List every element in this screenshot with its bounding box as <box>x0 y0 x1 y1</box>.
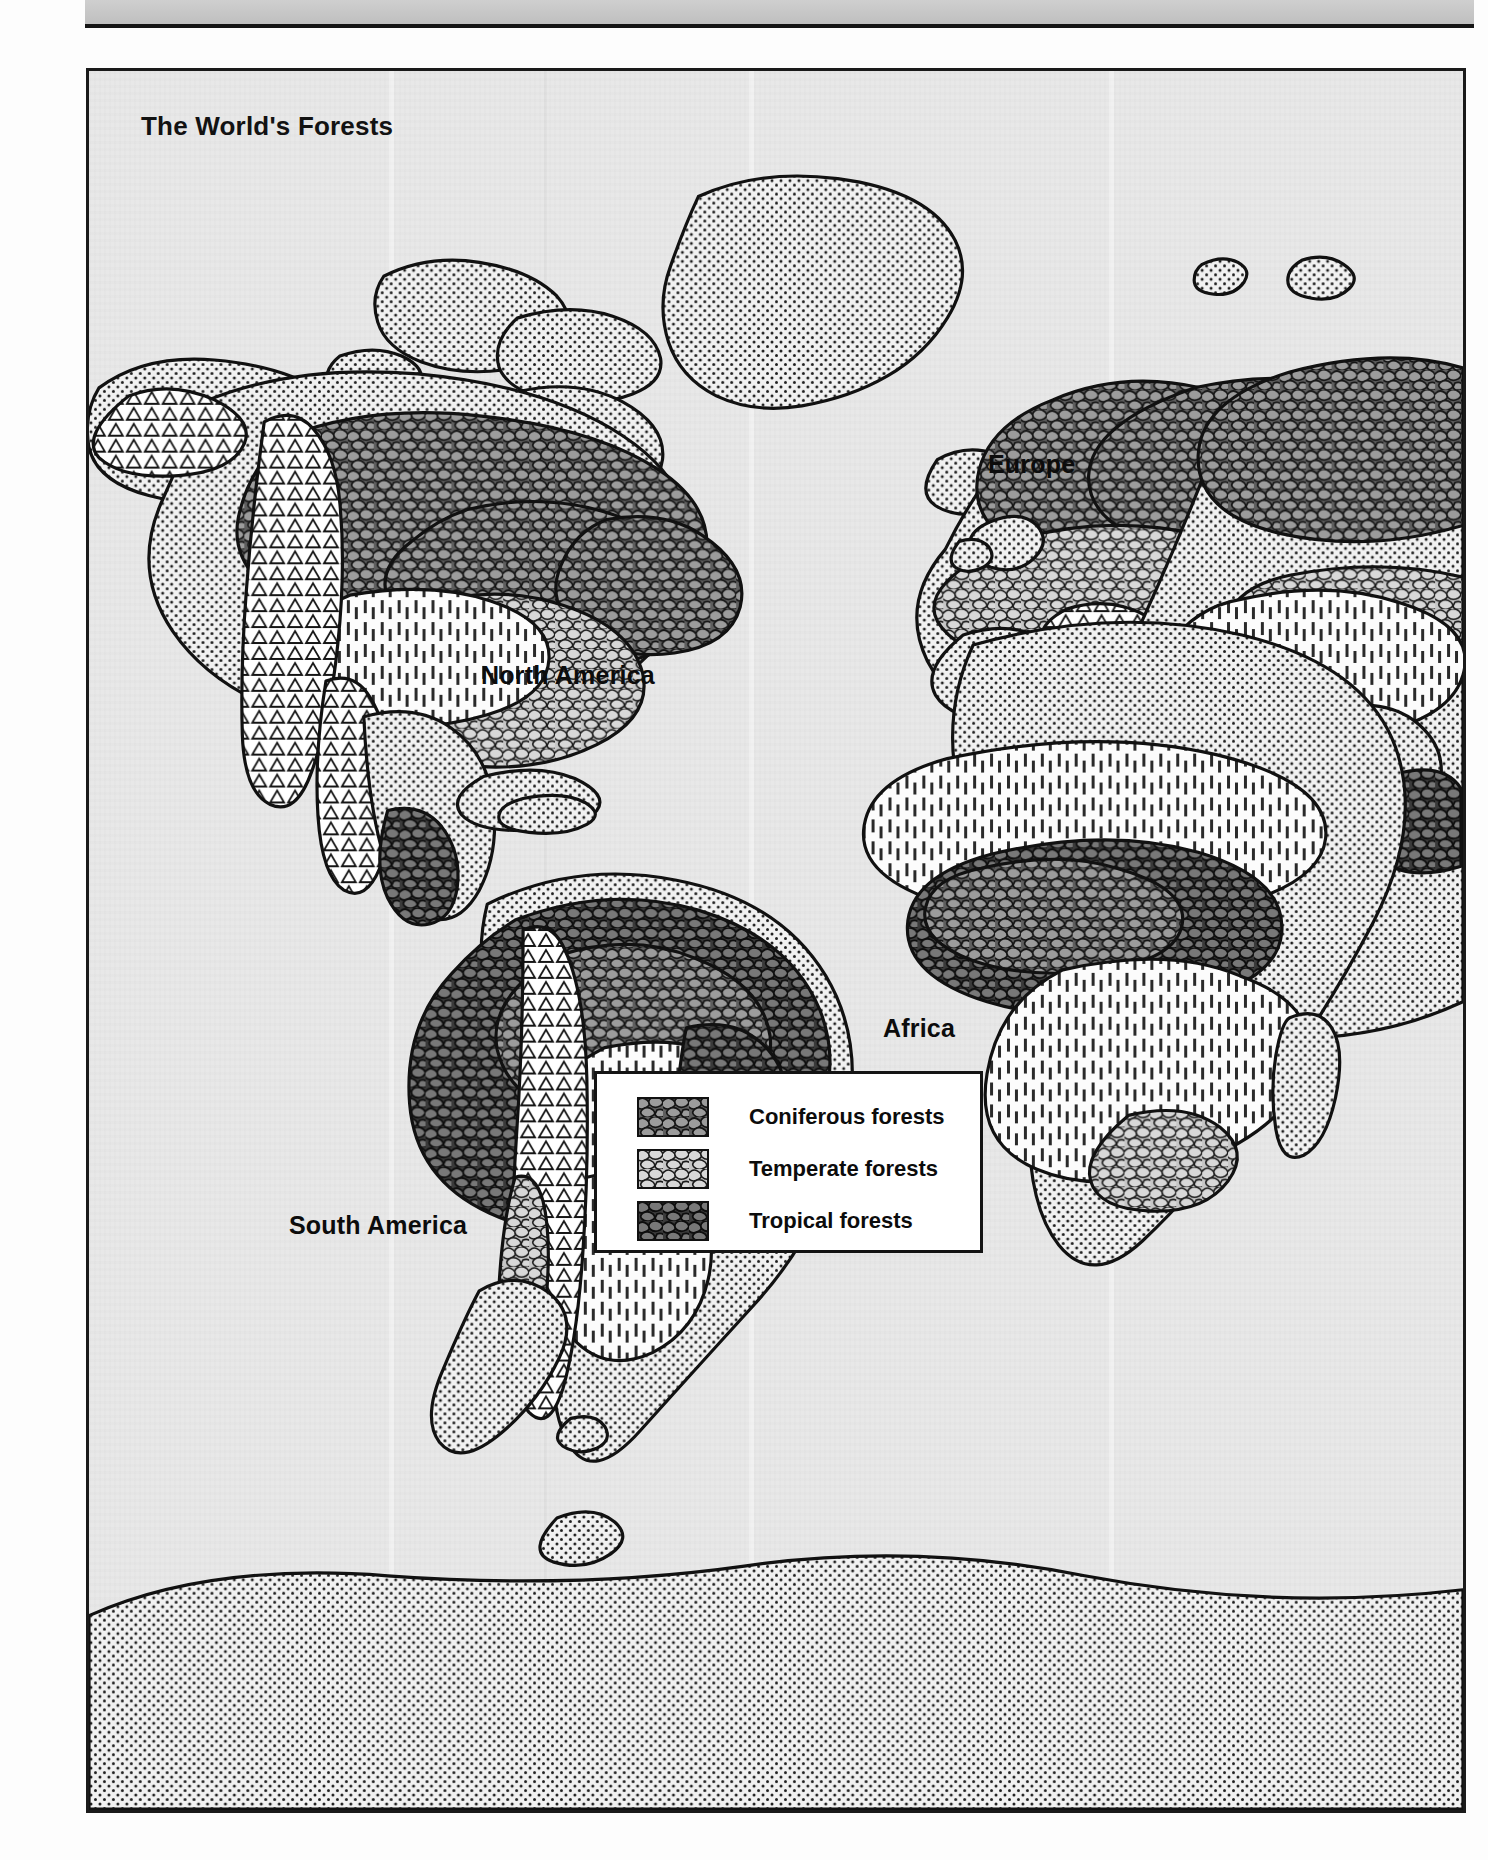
legend-entry-tropical: Tropical forests <box>637 1201 913 1241</box>
world-map-graphic <box>89 71 1463 1810</box>
legend-swatch-tropical-icon <box>637 1201 709 1241</box>
region-cuba <box>499 795 596 833</box>
forest-tropical-west-africa <box>925 859 1183 973</box>
legend-entry-coniferous: Coniferous forests <box>637 1097 945 1137</box>
map-label-north-america: North America <box>481 661 655 690</box>
region-antarctic-peninsula <box>431 1280 567 1453</box>
legend-label-tropical: Tropical forests <box>749 1208 913 1234</box>
map-legend: Coniferous forests Temperate forests Tro… <box>594 1071 983 1253</box>
region-tierra-del-fuego <box>558 1417 608 1452</box>
region-antarctica <box>89 1556 1463 1809</box>
region-svalbard <box>1194 259 1247 295</box>
region-subantarctic-islands <box>540 1512 623 1566</box>
map-label-africa: Africa <box>883 1014 955 1043</box>
legend-swatch-temperate-icon <box>637 1149 709 1189</box>
page-header-bar <box>85 0 1474 28</box>
map-label-south-america: South America <box>289 1211 467 1240</box>
map-label-europe: Europe <box>988 450 1075 479</box>
region-ireland <box>951 539 992 571</box>
legend-swatch-coniferous-icon <box>637 1097 709 1137</box>
region-greenland <box>663 176 963 408</box>
region-madagascar <box>1273 1014 1340 1158</box>
legend-label-coniferous: Coniferous forests <box>749 1104 945 1130</box>
region-novaya-zemlya <box>1288 257 1355 299</box>
map-figure: The World's Forests <box>86 68 1466 1813</box>
legend-entry-temperate: Temperate forests <box>637 1149 938 1189</box>
legend-label-temperate: Temperate forests <box>749 1156 938 1182</box>
page-header-bar-fill <box>85 0 1474 24</box>
